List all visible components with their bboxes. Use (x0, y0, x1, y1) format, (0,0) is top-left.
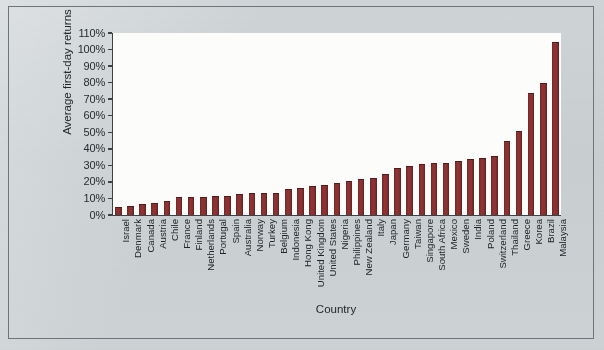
x-axis-tick: Austria (150, 219, 157, 309)
bar (261, 193, 268, 216)
bar (479, 158, 486, 215)
bar (516, 131, 523, 215)
bar (224, 196, 231, 215)
y-axis-tick-label: 30% (84, 160, 108, 171)
x-axis-tick: Malaysia (551, 219, 558, 309)
x-axis-tick: Indonesia (284, 219, 291, 309)
bar (334, 183, 341, 215)
x-axis-tick-labels: IsraelDenmarkCanadaAustriaChileFranceFin… (112, 219, 560, 309)
bar (151, 203, 158, 215)
bar (200, 197, 207, 215)
x-axis-tick: Finland (187, 219, 194, 309)
y-axis-tick-label: 50% (84, 127, 108, 138)
x-axis-tick: Greece (515, 219, 522, 309)
x-axis-tick: Spain (223, 219, 230, 309)
x-axis-tick: Canada (138, 219, 145, 309)
y-axis-tick-label: 60% (84, 110, 108, 121)
bar (115, 207, 122, 215)
x-axis-tick: Brazil (539, 219, 546, 309)
y-axis-tick-label: 100% (78, 44, 108, 55)
bar (164, 201, 171, 215)
x-axis-tick: New Zealand (357, 219, 364, 309)
x-axis-tick: Switzerland (490, 219, 497, 309)
bar (528, 93, 535, 215)
bar (249, 193, 256, 215)
bar (309, 186, 316, 215)
bar (504, 141, 511, 215)
x-axis-tick-label: Malaysia (558, 219, 568, 257)
x-axis-tick: Sweden (454, 219, 461, 309)
x-axis-tick: Taiwan (405, 219, 412, 309)
x-axis-tick: Mexico (442, 219, 449, 309)
scanned-page: Average first-day returns 110%100%90%80%… (0, 0, 604, 350)
x-axis-tick: Portugal (211, 219, 218, 309)
x-axis-tick: Germany (393, 219, 400, 309)
x-axis-tick: Chile (163, 219, 170, 309)
x-axis-tick: Netherlands (199, 219, 206, 309)
x-axis-title: Country (112, 303, 560, 315)
bar (552, 42, 559, 215)
bar (358, 179, 365, 215)
x-axis-tick: India (466, 219, 473, 309)
bar-chart: Average first-day returns 110%100%90%80%… (0, 0, 604, 350)
bar (346, 181, 353, 215)
y-axis-tick-label: 40% (84, 143, 108, 154)
x-axis-tick: Australia (235, 219, 242, 309)
x-axis-tick: Japan (381, 219, 388, 309)
bar (273, 193, 280, 216)
x-axis-tick: Belgium (272, 219, 279, 309)
x-axis-tick: Israel (114, 219, 121, 309)
x-axis-tick: Poland (478, 219, 485, 309)
bar (467, 159, 474, 215)
bar (176, 197, 183, 215)
bar (127, 206, 134, 215)
bar (321, 185, 328, 215)
bar (382, 174, 389, 215)
bar (139, 204, 146, 215)
x-axis-tick: Thailand (503, 219, 510, 309)
x-axis-tick: Norway (248, 219, 255, 309)
bar-series (113, 33, 561, 215)
bar (431, 163, 438, 215)
bar (188, 197, 195, 215)
bar (297, 188, 304, 215)
bar (394, 168, 401, 215)
x-axis-tick: Hong Kong (296, 219, 303, 309)
bar (419, 164, 426, 215)
bar (540, 83, 547, 215)
y-axis-tick-label: 20% (84, 176, 108, 187)
x-axis-tick: Korea (527, 219, 534, 309)
y-axis-tick-label: 70% (84, 94, 108, 105)
bar (236, 194, 243, 215)
x-axis-tick: France (175, 219, 182, 309)
bar (406, 166, 413, 215)
x-axis-tick: Italy (369, 219, 376, 309)
y-axis-tick-label: 80% (84, 77, 108, 88)
x-axis-tick: South Africa (430, 219, 437, 309)
bar (491, 156, 498, 215)
plot-area (112, 33, 561, 216)
y-axis-title: Average first-day returns (61, 0, 73, 167)
y-axis-tick-label: 90% (84, 61, 108, 72)
y-axis-tick-label: 0% (90, 210, 109, 221)
x-axis-tick: United States (320, 219, 327, 309)
x-axis-tick: Denmark (126, 219, 133, 309)
x-axis-tick: Singapore (418, 219, 425, 309)
bar (370, 178, 377, 215)
x-axis-tick: Turkey (260, 219, 267, 309)
bar (443, 163, 450, 215)
x-axis-tick: United Kingdom (308, 219, 315, 309)
x-axis-tick: Nigeria (333, 219, 340, 309)
y-axis-tick-label: 10% (84, 193, 108, 204)
x-axis-tick: Philippines (345, 219, 352, 309)
bar (455, 161, 462, 215)
bar (212, 196, 219, 215)
y-axis-tick-label: 110% (78, 28, 108, 39)
bar (285, 189, 292, 215)
